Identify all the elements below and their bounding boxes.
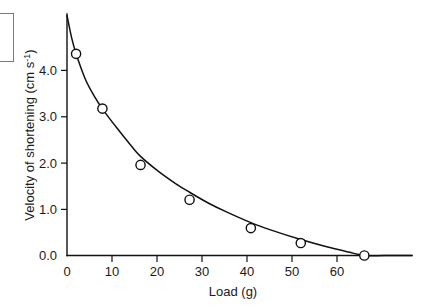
data-point (185, 195, 194, 204)
figure-root: 4.0 3.0 2.0 1.0 0.0 0 10 20 30 40 50 60 … (0, 0, 422, 307)
y-tick-labels: 4.0 3.0 2.0 1.0 0.0 (39, 63, 57, 263)
y-tick-label-4: 4.0 (39, 63, 57, 78)
y-axis-title-main: Velocity of shortening (cm s (22, 61, 37, 220)
y-tick-label-0: 0.0 (39, 248, 57, 263)
x-tick-label-50: 50 (285, 264, 299, 279)
x-axis-title: Load (g) (209, 284, 257, 299)
y-tick-label-1: 1.0 (39, 202, 57, 217)
y-axis-title-end: ) (22, 49, 37, 53)
y-tick-label-3: 3.0 (39, 109, 57, 124)
y-axis-ticks (61, 70, 67, 209)
data-point (296, 238, 305, 247)
y-tick-label-2: 2.0 (39, 156, 57, 171)
x-tick-label-40: 40 (240, 264, 254, 279)
x-tick-label-60: 60 (330, 264, 344, 279)
data-point (360, 251, 369, 260)
x-tick-label-20: 20 (150, 264, 164, 279)
y-axis-title-superscript: -1 (22, 54, 32, 62)
x-tick-label-0: 0 (63, 264, 70, 279)
x-axis-ticks (112, 256, 337, 263)
x-tick-label-30: 30 (195, 264, 209, 279)
x-tick-labels: 0 10 20 30 40 50 60 (63, 264, 344, 279)
y-axis-title-group: Velocity of shortening (cm s-1) (22, 49, 37, 220)
y-axis-title: Velocity of shortening (cm s-1) (22, 49, 37, 220)
data-point (71, 49, 80, 58)
data-point (136, 160, 145, 169)
force-velocity-chart: 4.0 3.0 2.0 1.0 0.0 0 10 20 30 40 50 60 … (0, 0, 422, 307)
data-point (98, 104, 107, 113)
velocity-load-curve (67, 15, 412, 255)
data-point-markers (71, 49, 368, 260)
x-tick-label-10: 10 (105, 264, 119, 279)
data-point (246, 224, 255, 233)
